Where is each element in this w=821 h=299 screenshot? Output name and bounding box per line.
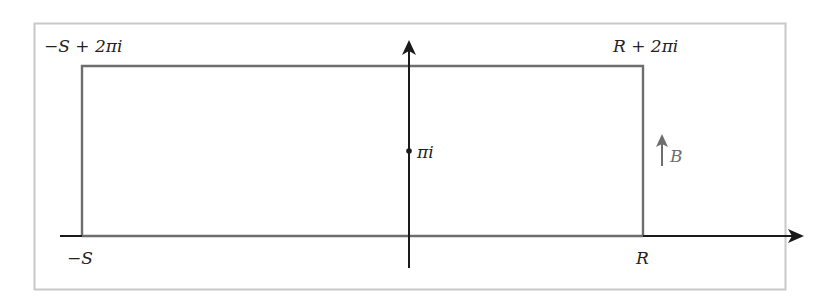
- label-top-right: R + 2πi: [612, 36, 678, 56]
- label-pi-i: πi: [416, 142, 434, 162]
- label-top-left: −S + 2πi: [44, 36, 122, 56]
- point-pi-i: [406, 148, 412, 154]
- label-B: B: [669, 146, 683, 166]
- label-bottom-left: −S: [67, 248, 93, 268]
- contour-rectangle: [82, 66, 643, 236]
- label-bottom-right: R: [635, 248, 649, 268]
- contour-diagram: −S + 2πi R + 2πi −S R πi B: [0, 0, 821, 299]
